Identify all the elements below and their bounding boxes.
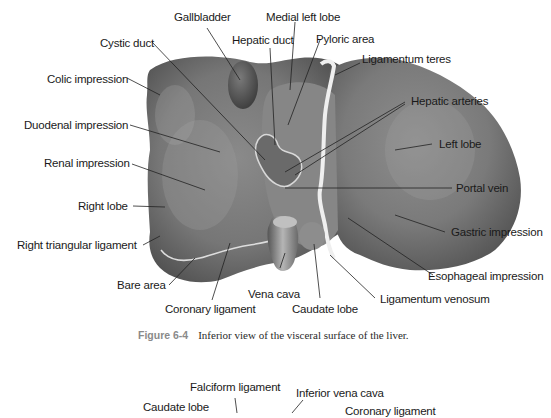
label-inferior-vena-cava: Inferior vena cava — [296, 387, 384, 400]
label-portal-vein: Portal vein — [456, 182, 508, 195]
label-caudate-lobe-bottom: Caudate lobe — [143, 401, 209, 414]
label-duodenal-impression: Duodenal impression — [24, 119, 128, 132]
label-falciform-ligament: Falciform ligament — [190, 381, 280, 394]
label-vena-cava: Vena cava — [248, 288, 300, 301]
figure-caption: Figure 6-4Inferior view of the visceral … — [138, 329, 409, 341]
label-cystic-duct: Cystic duct — [100, 37, 154, 50]
label-coronary-ligament: Coronary ligament — [165, 303, 256, 316]
figure-caption-text: Inferior view of the visceral surface of… — [198, 329, 408, 341]
label-ligamentum-venosum: Ligamentum venosum — [380, 293, 490, 306]
caudate-lobe-shape — [299, 222, 325, 250]
label-hepatic-duct: Hepatic duct — [232, 34, 294, 47]
figure-number: Figure 6-4 — [138, 329, 188, 341]
label-medial-left-lobe: Medial left lobe — [266, 11, 340, 24]
label-hepatic-arteries: Hepatic arteries — [411, 95, 488, 108]
label-gallbladder: Gallbladder — [174, 11, 231, 24]
label-renal-impression: Renal impression — [44, 157, 130, 170]
label-bare-area: Bare area — [117, 279, 166, 292]
label-colic-impression: Colic impression — [47, 73, 128, 86]
label-left-lobe: Left lobe — [439, 138, 481, 151]
label-coronary-ligament-bottom-clipped: Coronary ligament — [345, 405, 436, 418]
label-caudate-lobe: Caudate lobe — [292, 303, 358, 316]
label-right-lobe: Right lobe — [78, 200, 128, 213]
label-ligamentum-teres: Ligamentum teres — [362, 53, 451, 66]
label-esophageal-impression: Esophageal impression — [428, 270, 543, 283]
label-right-triangular-ligament: Right triangular ligament — [17, 239, 137, 252]
label-gastric-impression: Gastric impression — [451, 226, 543, 239]
label-pyloric-area: Pyloric area — [316, 33, 374, 46]
